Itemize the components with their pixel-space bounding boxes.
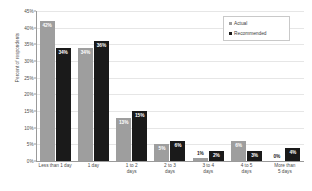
x-axis-category-label: 1 day [74, 163, 112, 175]
y-tick-label: 0% [27, 159, 34, 164]
bar-value-label: 6% [235, 143, 242, 148]
y-axis-title: Percent of respondents [15, 3, 20, 113]
y-tick-label: 10% [24, 125, 33, 130]
bar-actual[interactable]: 1% [193, 158, 208, 161]
legend-item-recommended[interactable]: Recommended [229, 31, 285, 36]
bar-value-label: 0% [273, 154, 280, 159]
x-axis-category-label: 3 to 4 days [189, 163, 227, 175]
bar-actual[interactable]: 42% [40, 21, 55, 161]
legend: Actual Recommended [223, 16, 290, 41]
legend-item-actual[interactable]: Actual [229, 21, 285, 26]
x-axis-category-label: 1 to 2 days [113, 163, 151, 175]
bar-recommended[interactable]: 3% [247, 151, 262, 161]
y-tick-label: 15% [24, 109, 33, 114]
bar-value-label: 6% [175, 143, 182, 148]
bar-recommended[interactable]: 6% [170, 141, 185, 161]
bar-value-label: 34% [81, 50, 90, 55]
legend-label: Actual [234, 21, 247, 26]
y-tick-label: 35% [24, 42, 33, 47]
x-axis-labels: Less than 1 day1 day1 to 2 days2 to 3 da… [36, 163, 304, 175]
legend-swatch-icon [229, 22, 232, 25]
bar-chart: Percent of respondents 45%40%35%30%25%20… [0, 0, 312, 191]
bar-group: 1%2% [189, 11, 227, 161]
bar-group: 42%34% [36, 11, 74, 161]
y-tick-label: 40% [24, 25, 33, 30]
legend-swatch-icon [229, 32, 232, 35]
bar-recommended[interactable]: 34% [56, 48, 71, 161]
bar-value-label: 34% [58, 50, 67, 55]
bar-value-label: 15% [135, 113, 144, 118]
bar-value-label: 2% [213, 153, 220, 158]
bar-value-label: 13% [119, 120, 128, 125]
bar-actual[interactable]: 13% [116, 118, 131, 161]
y-tick-label: 25% [24, 75, 33, 80]
bar-actual[interactable]: 34% [78, 48, 93, 161]
bar-value-label: 3% [251, 153, 258, 158]
bar-group: 5%6% [151, 11, 189, 161]
legend-label: Recommended [234, 31, 267, 36]
bar-recommended[interactable]: 4% [285, 148, 300, 161]
x-axis-category-label: 4 to 5 days [227, 163, 265, 175]
bar-actual[interactable]: 5% [154, 144, 169, 161]
y-tick-label: 20% [24, 92, 33, 97]
bar-value-label: 1% [197, 151, 204, 156]
bar-value-label: 42% [42, 23, 51, 28]
bar-actual[interactable]: 6% [231, 141, 246, 161]
y-tick-label: 30% [24, 59, 33, 64]
bar-value-label: 5% [159, 146, 166, 151]
x-axis-category-label: 2 to 3 days [151, 163, 189, 175]
y-tick-label: 45% [24, 9, 33, 14]
bar-value-label: 4% [289, 150, 296, 155]
bar-group: 34%36% [74, 11, 112, 161]
bar-recommended[interactable]: 2% [209, 151, 224, 161]
y-tick-label: 5% [27, 142, 34, 147]
x-axis-category-label: More than 5 days [266, 163, 304, 175]
bar-recommended[interactable]: 15% [132, 111, 147, 161]
bar-recommended[interactable]: 36% [94, 41, 109, 161]
bar-group: 13%15% [113, 11, 151, 161]
gridline [36, 161, 304, 162]
x-axis-category-label: Less than 1 day [36, 163, 74, 175]
bar-value-label: 36% [97, 43, 106, 48]
